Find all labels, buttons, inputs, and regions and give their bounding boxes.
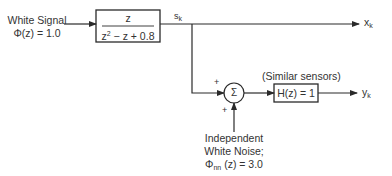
sensor-caption: (Similar sensors) [262,70,341,82]
output-label-xk: xk [364,16,373,32]
filter-numerator: z [96,12,160,24]
input-label-line2: Φ(z) = 1.0 [6,27,68,39]
noise-label-line3: Φnn (z) = 3.0 [194,158,274,174]
signal-label-sk: sk [174,10,182,25]
plus-top: + [214,76,219,88]
sensor-block-label: H(z) = 1 [274,87,318,99]
noise-label: Independent White Noise; Φnn (z) = 3.0 [194,132,274,174]
denominator-rest: − z + 0.8 [111,30,155,42]
input-label: White Signal Φ(z) = 1.0 [6,14,68,39]
sigma-symbol: Σ [226,87,242,99]
plus-bottom: + [222,104,227,116]
noise-label-line2: White Noise; [194,145,274,157]
output-label-yk: yk [362,86,371,102]
input-label-line1: White Signal [6,14,68,26]
filter-denominator: z2 − z + 0.8 [96,28,160,42]
noise-label-line1: Independent [194,132,274,144]
